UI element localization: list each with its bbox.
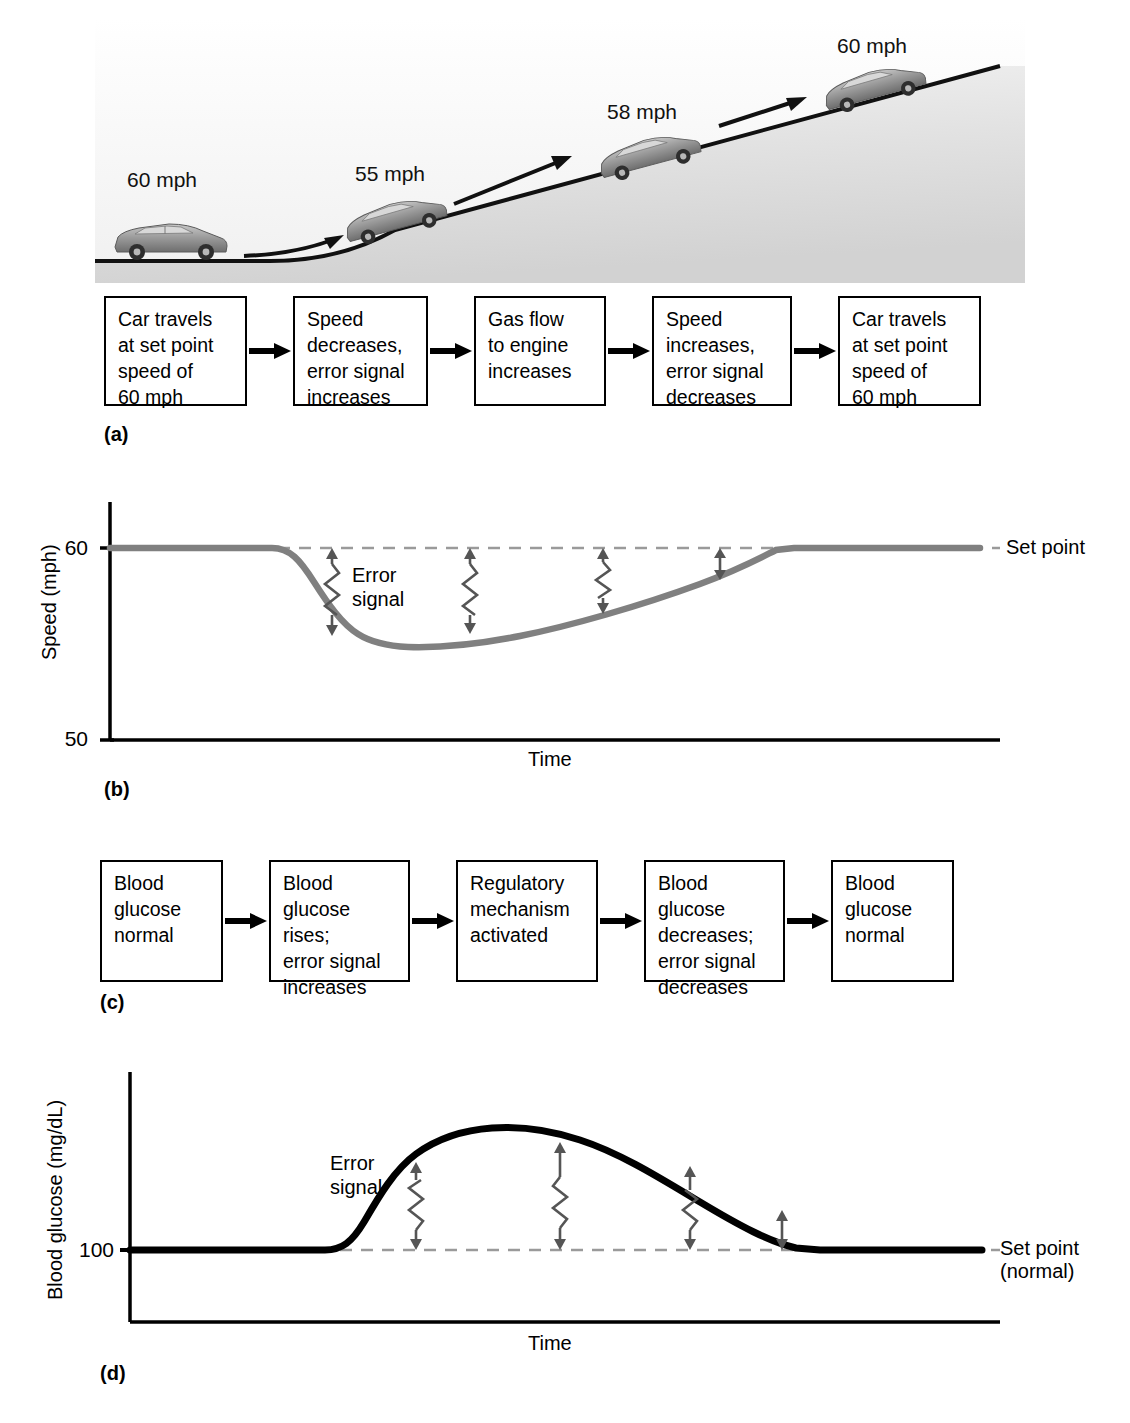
- motion-arrow-3-icon: [715, 90, 815, 136]
- flow-line: at set point: [118, 333, 235, 359]
- panel-label-c: (c): [100, 991, 124, 1014]
- flow-box-a-2[interactable]: Speed decreases, error signal increases: [293, 296, 428, 406]
- speed-y-axis-label: Speed (mph): [38, 544, 61, 660]
- flow-line: activated: [470, 923, 586, 949]
- speed-x-axis-label: Time: [528, 748, 572, 771]
- flow-line: rises;: [283, 923, 398, 949]
- flow-line: glucose: [283, 897, 398, 923]
- flow-line: decreases,: [307, 333, 416, 359]
- error-arrow-1: [325, 548, 339, 636]
- glucose-graph: [120, 1070, 1010, 1330]
- car-hill-photo: 60 mph 55 mph 58 mph 60 mph: [95, 18, 1025, 283]
- error-label-line: signal: [330, 1176, 382, 1200]
- error-arrow-3: [683, 1166, 697, 1250]
- speed-curve: [110, 548, 980, 647]
- flow-line: normal: [114, 923, 211, 949]
- flow-line: error signal: [283, 949, 398, 975]
- flow-line: Speed: [307, 307, 416, 333]
- flow-line: normal: [845, 923, 942, 949]
- flow-arrow-icon: [598, 912, 644, 930]
- flow-line: increases: [307, 385, 416, 411]
- flow-line: to engine: [488, 333, 594, 359]
- set-point-line: (normal): [1000, 1260, 1079, 1283]
- flow-line: decreases;: [658, 923, 773, 949]
- error-label-line: Error: [330, 1152, 382, 1176]
- flow-line: error signal: [658, 949, 773, 975]
- flow-line: Car travels: [852, 307, 969, 333]
- glucose-x-axis-label: Time: [528, 1332, 572, 1355]
- glucose-y-axis-label: Blood glucose (mg/dL): [44, 1100, 67, 1300]
- flow-line: glucose: [114, 897, 211, 923]
- flow-line: increases: [283, 975, 398, 1001]
- error-arrow-2: [553, 1142, 567, 1250]
- speed-tag-2: 55 mph: [355, 162, 425, 186]
- flow-line: Regulatory: [470, 871, 586, 897]
- flow-box-c-4[interactable]: Blood glucose decreases; error signal de…: [644, 860, 785, 982]
- flow-line: glucose: [845, 897, 942, 923]
- flow-line: increases: [488, 359, 594, 385]
- speed-tag-3: 58 mph: [607, 100, 677, 124]
- flow-line: Blood: [658, 871, 773, 897]
- motion-arrow-1-icon: [240, 228, 350, 264]
- flowchart-a: Car travels at set point speed of 60 mph…: [104, 296, 981, 406]
- glucose-ytick-100: 100: [58, 1238, 114, 1262]
- speed-graph: [100, 500, 1010, 750]
- flow-line: 60 mph: [852, 385, 969, 411]
- flow-line: Blood: [114, 871, 211, 897]
- flow-box-a-3[interactable]: Gas flow to engine increases: [474, 296, 606, 406]
- glucose-set-point-label: Set point (normal): [1000, 1237, 1079, 1283]
- flowchart-c: Blood glucose normal Blood glucose rises…: [100, 860, 954, 982]
- motion-arrow-2-icon: [450, 148, 580, 212]
- flow-line: error signal: [666, 359, 780, 385]
- error-label-line: signal: [352, 588, 404, 612]
- speed-error-signal-label: Error signal: [352, 564, 404, 611]
- panel-label-d: (d): [100, 1362, 126, 1385]
- flow-box-a-4[interactable]: Speed increases, error signal decreases: [652, 296, 792, 406]
- flow-line: at set point: [852, 333, 969, 359]
- flow-line: glucose: [658, 897, 773, 923]
- flow-box-c-2[interactable]: Blood glucose rises; error signal increa…: [269, 860, 410, 982]
- flow-line: Car travels: [118, 307, 235, 333]
- flow-line: Gas flow: [488, 307, 594, 333]
- error-arrow-3: [596, 548, 610, 614]
- flow-line: increases,: [666, 333, 780, 359]
- error-arrow-1: [409, 1162, 423, 1250]
- flow-arrow-icon: [785, 912, 831, 930]
- error-label-line: Error: [352, 564, 404, 588]
- flow-line: error signal: [307, 359, 416, 385]
- flow-arrow-icon: [247, 342, 293, 360]
- panel-label-b: (b): [104, 778, 130, 801]
- flow-arrow-icon: [223, 912, 269, 930]
- flow-box-a-1[interactable]: Car travels at set point speed of 60 mph: [104, 296, 247, 406]
- flow-line: Speed: [666, 307, 780, 333]
- flow-box-c-1[interactable]: Blood glucose normal: [100, 860, 223, 982]
- flow-line: decreases: [666, 385, 780, 411]
- flow-arrow-icon: [606, 342, 652, 360]
- flow-box-c-5[interactable]: Blood glucose normal: [831, 860, 954, 982]
- flow-line: Blood: [845, 871, 942, 897]
- car-1: [109, 214, 231, 262]
- flow-box-a-5[interactable]: Car travels at set point speed of 60 mph: [838, 296, 981, 406]
- flow-line: speed of: [118, 359, 235, 385]
- flow-box-c-3[interactable]: Regulatory mechanism activated: [456, 860, 598, 982]
- flow-arrow-icon: [410, 912, 456, 930]
- speed-ytick-60: 60: [40, 536, 88, 560]
- set-point-line: Set point: [1000, 1237, 1079, 1260]
- flow-line: 60 mph: [118, 385, 235, 411]
- flow-line: speed of: [852, 359, 969, 385]
- flow-line: Blood: [283, 871, 398, 897]
- speed-set-point-label: Set point: [1006, 536, 1085, 559]
- flow-arrow-icon: [792, 342, 838, 360]
- flow-arrow-icon: [428, 342, 474, 360]
- speed-tag-1: 60 mph: [127, 168, 197, 192]
- speed-ytick-50: 50: [40, 727, 88, 751]
- flow-line: decreases: [658, 975, 773, 1001]
- panel-label-a: (a): [104, 423, 128, 446]
- glucose-error-signal-label: Error signal: [330, 1152, 382, 1199]
- flow-line: mechanism: [470, 897, 586, 923]
- error-arrow-2: [463, 548, 477, 634]
